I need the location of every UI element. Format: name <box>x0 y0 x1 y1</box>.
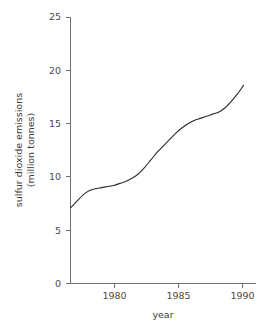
y-axis-title-line2: (million tonnes) <box>25 113 36 187</box>
y-tick-label-25: 25 <box>49 11 61 22</box>
y-tick-label-5: 5 <box>55 225 61 236</box>
y-axis-title-line1: sulfur dioxide emissions <box>13 93 24 207</box>
line-chart: 0 5 10 15 20 25 1980 1985 1990 year sulf… <box>0 0 280 325</box>
x-tick-label-1990: 1990 <box>230 290 254 301</box>
x-tick-label-1985: 1985 <box>166 290 190 301</box>
y-tick-label-0: 0 <box>55 278 61 289</box>
chart-container: 0 5 10 15 20 25 1980 1985 1990 year sulf… <box>0 0 280 325</box>
x-axis-title: year <box>152 309 173 320</box>
y-tick-label-20: 20 <box>49 65 61 76</box>
x-tick-label-1980: 1980 <box>102 290 126 301</box>
y-tick-label-15: 15 <box>49 118 61 129</box>
y-tick-label-10: 10 <box>49 171 61 182</box>
emissions-line-series <box>71 85 244 207</box>
